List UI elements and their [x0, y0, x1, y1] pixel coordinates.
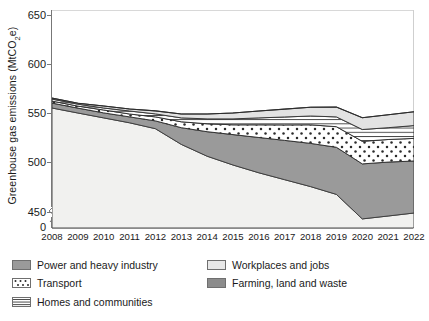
legend-label-power-and-heavy-industry: Power and heavy industry	[37, 259, 158, 271]
x-tick-2022: 2022	[399, 232, 429, 242]
legend-item-workplaces-and-jobs[interactable]: Workplaces and jobs	[207, 258, 347, 271]
legend-swatch-homes-and-communities	[12, 297, 31, 307]
stacked-area-svg	[52, 10, 414, 228]
plot-area	[52, 10, 414, 228]
legend-column-left: Power and heavy industry Transport	[12, 258, 158, 314]
legend-swatch-farming-land-and-waste	[207, 278, 226, 288]
legend-column-right: Workplaces and jobs Farming, land and wa…	[207, 258, 347, 295]
y-axis-tick-labels: 650 600 550 500 450 0	[14, 0, 46, 240]
legend-label-workplaces-and-jobs: Workplaces and jobs	[232, 259, 329, 271]
legend-label-transport: Transport	[37, 277, 82, 289]
x-axis-line	[52, 228, 414, 229]
y-tick-650: 650	[18, 10, 46, 21]
y-tick-550: 550	[18, 108, 46, 119]
x-axis-tick-labels: 2008 2009 2010 2011 2012 2013 2014 2015 …	[52, 232, 414, 248]
y-tick-600: 600	[18, 59, 46, 70]
y-tick-500: 500	[18, 157, 46, 168]
legend-item-farming-land-and-waste[interactable]: Farming, land and waste	[207, 277, 347, 290]
legend-swatch-power-and-heavy-industry	[12, 260, 31, 270]
legend-swatch-transport	[12, 278, 31, 288]
legend-item-homes-and-communities[interactable]: Homes and communities	[12, 295, 158, 308]
y-tick-450: 450	[18, 207, 46, 218]
legend-label-homes-and-communities: Homes and communities	[37, 296, 153, 308]
legend-item-transport[interactable]: Transport	[12, 277, 158, 290]
legend-label-farming-land-and-waste: Farming, land and waste	[232, 277, 347, 289]
legend-item-power-and-heavy-industry[interactable]: Power and heavy industry	[12, 258, 158, 271]
legend-swatch-workplaces-and-jobs	[207, 260, 226, 270]
